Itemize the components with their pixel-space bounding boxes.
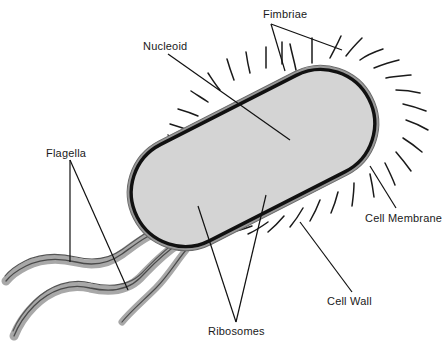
leader-flagella-2 (70, 160, 128, 290)
label-cell-membrane: Cell Membrane (365, 212, 442, 224)
label-cell-wall: Cell Wall (327, 295, 372, 307)
diagram-canvas (0, 0, 446, 361)
label-fimbriae: Fimbriae (263, 8, 307, 20)
cell-membrane (113, 51, 394, 265)
label-nucleoid: Nucleoid (143, 40, 187, 52)
label-ribosomes: Ribosomes (208, 325, 265, 337)
leader-cell-wall (300, 222, 352, 292)
leader-cell-membrane (370, 166, 396, 208)
bacterial-cell-diagram: Fimbriae Nucleoid Flagella Cell Membrane… (0, 0, 446, 361)
leader-fimbriae-1 (271, 24, 285, 71)
label-flagella: Flagella (46, 147, 86, 159)
